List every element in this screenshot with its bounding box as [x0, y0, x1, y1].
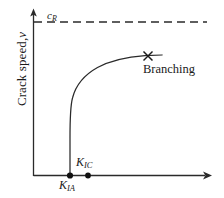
- kic-label-base: K: [76, 155, 84, 169]
- y-axis-label-symbol: v: [14, 32, 29, 38]
- plot-canvas: [0, 0, 224, 198]
- rayleigh-speed-label: cR: [47, 10, 57, 23]
- branching-label: Branching: [143, 63, 195, 76]
- kia-point-marker: [67, 172, 73, 178]
- kic-point-marker: [85, 173, 91, 179]
- crack-speed-figure: Crack speed,v cR KIC KIA Branching: [0, 0, 224, 198]
- kia-label-subscript: IA: [67, 183, 75, 193]
- y-axis: [30, 9, 37, 177]
- kia-label: KIA: [59, 179, 75, 193]
- y-axis-label-text: Crack speed,: [14, 38, 29, 106]
- kia-label-base: K: [59, 178, 67, 192]
- y-axis-label: Crack speed,v: [14, 32, 29, 106]
- y-axis-label-container: Crack speed,v: [12, 4, 30, 134]
- rayleigh-speed-label-subscript: R: [52, 14, 57, 23]
- kic-label: KIC: [76, 156, 93, 170]
- kic-label-subscript: IC: [84, 160, 93, 170]
